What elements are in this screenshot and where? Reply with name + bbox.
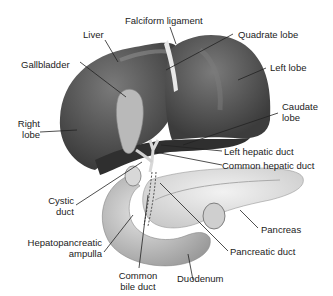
label-left-lobe: Left lobe (270, 62, 306, 73)
label-left-hepatic-duct: Left hepatic duct (224, 146, 294, 157)
label-right-lobe: Right lobe (12, 118, 40, 140)
label-falciform-ligament: Falciform ligament (125, 15, 203, 26)
label-duodenum: Duodenum (177, 273, 223, 284)
label-common-hepatic-duct: Common hepatic duct (222, 160, 314, 171)
label-liver: Liver (83, 29, 104, 40)
label-gallbladder: Gallbladder (21, 59, 70, 70)
label-cystic-duct: Cystic duct (36, 195, 74, 217)
label-pancreatic-duct: Pancreatic duct (230, 246, 295, 257)
label-common-bile-duct: Common bile duct (103, 270, 173, 292)
label-hepatopancreatic-ampulla: Hepatopancreatic ampulla (14, 237, 102, 259)
label-pancreas: Pancreas (261, 224, 301, 235)
label-quadrate-lobe: Quadrate lobe (238, 29, 298, 40)
hepatic-ducts (150, 140, 158, 172)
label-caudate-lobe: Caudate lobe (282, 101, 318, 123)
